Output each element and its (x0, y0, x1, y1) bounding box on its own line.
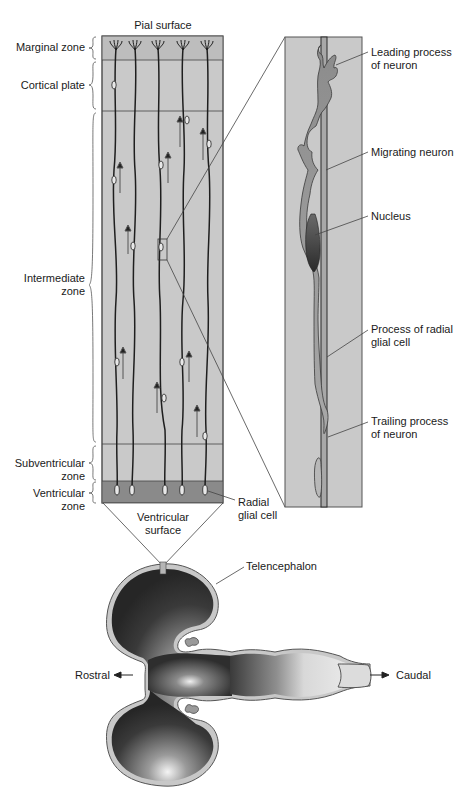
leader-telencephalon (216, 567, 244, 584)
spinal-canal (338, 664, 371, 688)
ventricular-surface-label-2: surface (120, 524, 206, 537)
radial-glial-process-label-1: Process of radial (371, 323, 453, 336)
marginal-zone-label: Marginal zone (0, 41, 85, 54)
ventricular-zone-label-2: zone (0, 500, 85, 513)
cortical-column (102, 36, 223, 503)
magnified-view (285, 37, 362, 507)
cortical-plate-label: Cortical plate (0, 79, 85, 92)
caudal-arrow-icon (370, 672, 389, 678)
pial-surface-label: Pial surface (110, 19, 216, 32)
rostral-label: Rostral (75, 669, 110, 682)
radial-glial-process-label-2: glial cell (371, 336, 410, 349)
telencephalon-bottom-cavity (112, 690, 214, 781)
caudal-label: Caudal (396, 669, 431, 682)
diencephalon-cavity (148, 653, 232, 697)
subventricular-zone-label-1: Subventricular (0, 457, 85, 470)
radial-glial-cell-label-1: Radial (238, 496, 269, 509)
brain-vesicles (106, 562, 371, 786)
trailing-process-label-1: Trailing process (371, 415, 448, 428)
subventricular-zone-label-2: zone (0, 470, 85, 483)
nucleus-label: Nucleus (371, 210, 411, 223)
rostral-arrow-icon (114, 672, 133, 678)
zone-brackets (89, 37, 96, 503)
ventricular-zone-label-1: Ventricular (0, 487, 85, 500)
diagram-canvas (0, 0, 475, 806)
sample-region-box (160, 562, 166, 574)
intermediate-zone-label-1: Intermediate (0, 272, 85, 285)
migrating-neuron-label: Migrating neuron (371, 146, 454, 159)
ventricular-surface-label-1: Ventricular (120, 511, 206, 524)
trailing-cell-shape (314, 458, 321, 497)
leading-process-label-1: Leading process (371, 46, 452, 59)
trailing-process-label-2: of neuron (371, 428, 417, 441)
telencephalon-label: Telencephalon (246, 560, 317, 573)
radial-glial-cell-label-2: glial cell (238, 509, 277, 522)
leading-process-label-2: of neuron (371, 59, 417, 72)
intermediate-zone-label-2: zone (0, 285, 85, 298)
